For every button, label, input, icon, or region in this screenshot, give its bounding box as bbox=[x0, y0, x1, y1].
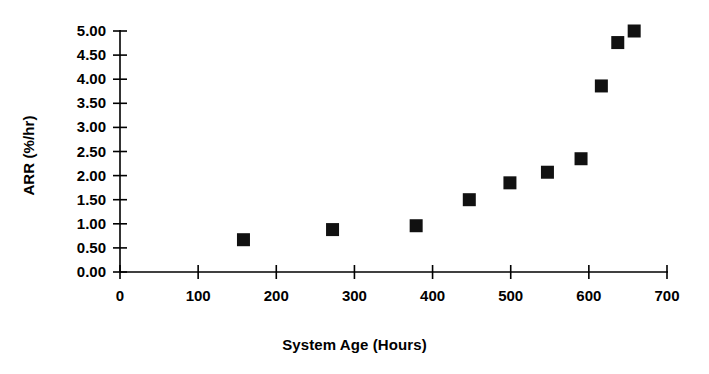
data-point-marker bbox=[611, 36, 624, 49]
x-tick-label: 300 bbox=[342, 287, 367, 304]
data-point-marker bbox=[237, 233, 250, 246]
y-tick-label: 4.50 bbox=[77, 46, 106, 63]
x-tick-label: 500 bbox=[498, 287, 523, 304]
data-point-marker bbox=[503, 176, 516, 189]
y-tick-label: 1.50 bbox=[77, 191, 106, 208]
y-tick-label: 2.00 bbox=[77, 167, 106, 184]
x-tick-label: 100 bbox=[186, 287, 211, 304]
data-point-marker bbox=[628, 25, 641, 38]
x-tick-label-group: 0100200300400500600700 bbox=[116, 287, 680, 304]
data-point-marker bbox=[463, 193, 476, 206]
chart-figure: ARR (%/hr) 0.000.501.001.502.002.503.003… bbox=[0, 0, 709, 374]
x-tick-label: 0 bbox=[116, 287, 124, 304]
data-point-marker bbox=[410, 219, 423, 232]
x-tick-label: 400 bbox=[420, 287, 445, 304]
y-tick-label: 5.00 bbox=[77, 22, 106, 39]
y-tick-label: 3.50 bbox=[77, 94, 106, 111]
data-point-marker bbox=[541, 166, 554, 179]
y-tick-label: 1.00 bbox=[77, 215, 106, 232]
data-point-marker bbox=[595, 79, 608, 92]
x-tick-label: 600 bbox=[576, 287, 601, 304]
data-point-marker bbox=[326, 223, 339, 236]
y-tick-label: 0.00 bbox=[77, 263, 106, 280]
y-tick-label: 0.50 bbox=[77, 239, 106, 256]
y-tick-label: 4.00 bbox=[77, 70, 106, 87]
scatter-plot: 0.000.501.001.502.002.503.003.504.004.50… bbox=[0, 0, 709, 374]
data-point-group bbox=[237, 25, 641, 247]
x-axis-label: System Age (Hours) bbox=[0, 336, 709, 353]
y-tick-label: 2.50 bbox=[77, 143, 106, 160]
x-tick-label: 200 bbox=[264, 287, 289, 304]
y-tick-label-group: 0.000.501.001.502.002.503.003.504.004.50… bbox=[77, 22, 106, 280]
y-tick-label: 3.00 bbox=[77, 118, 106, 135]
x-tick-label: 700 bbox=[654, 287, 679, 304]
data-point-marker bbox=[575, 152, 588, 165]
